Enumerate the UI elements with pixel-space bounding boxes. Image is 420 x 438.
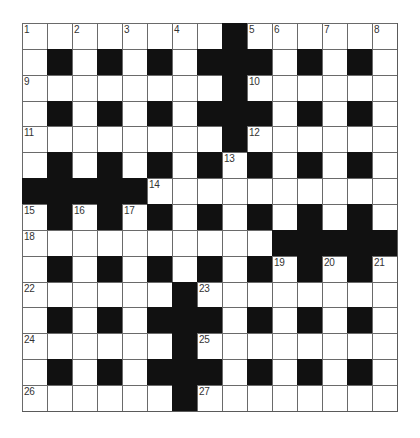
letter-cell[interactable] — [147, 230, 172, 256]
letter-cell[interactable] — [297, 178, 322, 204]
letter-cell[interactable] — [372, 385, 397, 411]
letter-cell[interactable]: 9 — [22, 75, 47, 101]
letter-cell[interactable] — [372, 75, 397, 101]
letter-cell[interactable]: 26 — [22, 385, 47, 411]
letter-cell[interactable] — [372, 49, 397, 75]
letter-cell[interactable]: 19 — [272, 256, 297, 282]
letter-cell[interactable] — [272, 75, 297, 101]
letter-cell[interactable]: 23 — [197, 282, 222, 308]
letter-cell[interactable] — [147, 333, 172, 359]
letter-cell[interactable] — [147, 23, 172, 49]
letter-cell[interactable] — [347, 23, 372, 49]
letter-cell[interactable]: 1 — [22, 23, 47, 49]
letter-cell[interactable] — [172, 126, 197, 152]
letter-cell[interactable] — [172, 178, 197, 204]
letter-cell[interactable] — [97, 333, 122, 359]
letter-cell[interactable] — [372, 359, 397, 385]
letter-cell[interactable]: 24 — [22, 333, 47, 359]
letter-cell[interactable] — [172, 256, 197, 282]
letter-cell[interactable] — [222, 256, 247, 282]
letter-cell[interactable] — [372, 307, 397, 333]
letter-cell[interactable] — [247, 385, 272, 411]
letter-cell[interactable] — [72, 49, 97, 75]
letter-cell[interactable] — [147, 385, 172, 411]
letter-cell[interactable] — [272, 101, 297, 127]
letter-cell[interactable] — [272, 385, 297, 411]
letter-cell[interactable] — [247, 230, 272, 256]
letter-cell[interactable]: 3 — [122, 23, 147, 49]
letter-cell[interactable]: 5 — [247, 23, 272, 49]
letter-cell[interactable] — [247, 282, 272, 308]
letter-cell[interactable] — [197, 23, 222, 49]
letter-cell[interactable] — [222, 204, 247, 230]
letter-cell[interactable] — [272, 152, 297, 178]
letter-cell[interactable] — [47, 75, 72, 101]
letter-cell[interactable] — [47, 230, 72, 256]
letter-cell[interactable] — [72, 152, 97, 178]
letter-cell[interactable] — [322, 333, 347, 359]
letter-cell[interactable] — [272, 204, 297, 230]
letter-cell[interactable] — [122, 256, 147, 282]
letter-cell[interactable] — [322, 49, 347, 75]
letter-cell[interactable] — [97, 126, 122, 152]
letter-cell[interactable] — [197, 178, 222, 204]
letter-cell[interactable] — [122, 126, 147, 152]
letter-cell[interactable] — [72, 126, 97, 152]
letter-cell[interactable]: 21 — [372, 256, 397, 282]
letter-cell[interactable] — [222, 307, 247, 333]
letter-cell[interactable]: 13 — [222, 152, 247, 178]
letter-cell[interactable] — [247, 333, 272, 359]
letter-cell[interactable] — [47, 23, 72, 49]
letter-cell[interactable]: 20 — [322, 256, 347, 282]
letter-cell[interactable] — [47, 385, 72, 411]
letter-cell[interactable] — [97, 230, 122, 256]
letter-cell[interactable] — [172, 49, 197, 75]
letter-cell[interactable] — [372, 126, 397, 152]
letter-cell[interactable] — [122, 230, 147, 256]
letter-cell[interactable] — [97, 23, 122, 49]
letter-cell[interactable] — [347, 178, 372, 204]
letter-cell[interactable] — [322, 152, 347, 178]
letter-cell[interactable] — [222, 359, 247, 385]
letter-cell[interactable] — [47, 333, 72, 359]
letter-cell[interactable] — [222, 230, 247, 256]
letter-cell[interactable] — [22, 101, 47, 127]
letter-cell[interactable] — [47, 126, 72, 152]
letter-cell[interactable] — [297, 333, 322, 359]
letter-cell[interactable]: 10 — [247, 75, 272, 101]
letter-cell[interactable] — [22, 49, 47, 75]
letter-cell[interactable]: 11 — [22, 126, 47, 152]
letter-cell[interactable] — [122, 49, 147, 75]
letter-cell[interactable] — [172, 230, 197, 256]
letter-cell[interactable] — [322, 385, 347, 411]
letter-cell[interactable] — [72, 359, 97, 385]
letter-cell[interactable]: 16 — [72, 204, 97, 230]
letter-cell[interactable] — [147, 126, 172, 152]
letter-cell[interactable] — [272, 333, 297, 359]
letter-cell[interactable] — [372, 282, 397, 308]
letter-cell[interactable] — [322, 307, 347, 333]
letter-cell[interactable] — [47, 282, 72, 308]
letter-cell[interactable] — [122, 101, 147, 127]
letter-cell[interactable] — [322, 101, 347, 127]
letter-cell[interactable]: 25 — [197, 333, 222, 359]
letter-cell[interactable] — [297, 282, 322, 308]
letter-cell[interactable]: 6 — [272, 23, 297, 49]
letter-cell[interactable]: 7 — [322, 23, 347, 49]
letter-cell[interactable]: 8 — [372, 23, 397, 49]
letter-cell[interactable] — [347, 75, 372, 101]
letter-cell[interactable] — [222, 282, 247, 308]
letter-cell[interactable] — [347, 385, 372, 411]
letter-cell[interactable]: 2 — [72, 23, 97, 49]
letter-cell[interactable]: 14 — [147, 178, 172, 204]
letter-cell[interactable]: 27 — [197, 385, 222, 411]
letter-cell[interactable] — [147, 282, 172, 308]
letter-cell[interactable] — [172, 101, 197, 127]
letter-cell[interactable] — [372, 101, 397, 127]
letter-cell[interactable] — [122, 333, 147, 359]
letter-cell[interactable] — [347, 282, 372, 308]
letter-cell[interactable] — [372, 204, 397, 230]
letter-cell[interactable] — [97, 282, 122, 308]
letter-cell[interactable] — [72, 282, 97, 308]
letter-cell[interactable] — [22, 359, 47, 385]
